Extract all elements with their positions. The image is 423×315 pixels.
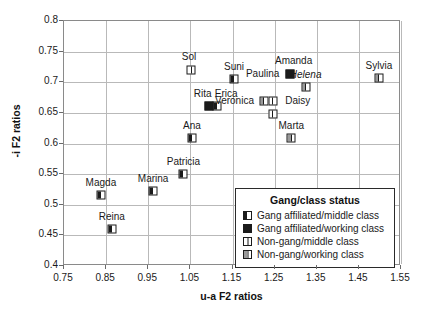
- legend-swatch-icon: [243, 250, 252, 259]
- data-point-label: Paulina: [246, 68, 279, 79]
- legend-item-gm: Gang affiliated/middle class: [243, 209, 387, 221]
- gridline-vertical: [148, 21, 149, 264]
- x-tick-mark: [316, 265, 317, 269]
- data-point-label: Rita: [194, 88, 212, 99]
- data-point-label: Ana: [183, 120, 201, 131]
- data-point-label: Veronica: [215, 95, 254, 106]
- data-point-marker: [187, 134, 196, 143]
- y-tick-label: 0.75: [0, 46, 58, 56]
- y-tick-label: 0.65: [0, 107, 58, 117]
- data-point-marker: [230, 74, 239, 83]
- x-tick-label: 1.45: [348, 273, 367, 283]
- x-tick-label: 0.75: [53, 273, 72, 283]
- gridline-horizontal: [64, 52, 399, 53]
- data-point-marker: [301, 83, 310, 92]
- gridline-vertical: [233, 21, 234, 264]
- legend-swatch-icon: [243, 224, 252, 233]
- data-point-label: Helena: [290, 69, 322, 80]
- y-tick-mark: [59, 234, 63, 235]
- x-tick-label: 0.85: [95, 273, 114, 283]
- y-tick-label: 0.55: [0, 168, 58, 178]
- data-point-marker: [179, 170, 188, 179]
- x-tick-mark: [105, 265, 106, 269]
- x-tick-mark: [358, 265, 359, 269]
- legend-item-gw: Gang affiliated/working class: [243, 222, 387, 234]
- x-tick-mark: [400, 265, 401, 269]
- x-tick-mark: [274, 265, 275, 269]
- data-point-marker: [187, 66, 196, 75]
- y-tick-mark: [59, 143, 63, 144]
- gridline-horizontal: [64, 174, 399, 175]
- data-point-label: Suni: [224, 61, 244, 72]
- y-tick-label: 0.6: [0, 138, 58, 148]
- legend-item-nm: Non-gang/middle class: [243, 235, 387, 247]
- gridline-horizontal: [64, 144, 399, 145]
- data-point-label: Marina: [138, 173, 169, 184]
- y-tick-label: 0.7: [0, 76, 58, 86]
- x-axis-title: u-a F2 ratios: [63, 290, 400, 302]
- gridline-vertical: [401, 21, 402, 264]
- data-point-label: Marta: [279, 120, 305, 131]
- y-tick-mark: [59, 112, 63, 113]
- y-tick-label: 0.8: [0, 15, 58, 25]
- data-point-marker: [96, 190, 105, 199]
- x-tick-mark: [63, 265, 64, 269]
- y-tick-label: 0.4: [0, 260, 58, 270]
- y-tick-mark: [59, 20, 63, 21]
- x-tick-label: 1.05: [180, 273, 199, 283]
- x-tick-label: 1.15: [222, 273, 241, 283]
- data-point-marker: [107, 225, 116, 234]
- data-point-label: Reina: [99, 211, 125, 222]
- y-tick-label: 0.45: [0, 229, 58, 239]
- data-point-label: Patricia: [167, 156, 200, 167]
- legend-item-label: Gang affiliated/working class: [257, 223, 384, 234]
- data-point-marker: [268, 96, 277, 105]
- x-tick-mark: [147, 265, 148, 269]
- y-tick-label: 0.5: [0, 199, 58, 209]
- legend-item-label: Gang affiliated/middle class: [257, 210, 379, 221]
- legend-item-label: Non-gang/middle class: [257, 236, 359, 247]
- x-tick-label: 0.95: [138, 273, 157, 283]
- data-point-label: Sol: [182, 51, 196, 62]
- y-tick-mark: [59, 173, 63, 174]
- data-point-marker: [259, 96, 268, 105]
- gridline-horizontal: [64, 113, 399, 114]
- legend-swatch-icon: [243, 211, 252, 220]
- legend-item-nw: Non-gang/working class: [243, 248, 387, 260]
- y-tick-mark: [59, 51, 63, 52]
- data-point-marker: [287, 134, 296, 143]
- legend-item-label: Non-gang/working class: [257, 249, 364, 260]
- data-point-label: Daisy: [285, 95, 310, 106]
- y-tick-mark: [59, 265, 63, 266]
- data-point-label: Magda: [86, 177, 117, 188]
- x-tick-label: 1.55: [390, 273, 409, 283]
- legend-title: Gang/class status: [243, 194, 387, 206]
- y-tick-mark: [59, 204, 63, 205]
- data-point-label: Sylvia: [366, 60, 393, 71]
- scatter-plot-figure: u-a F2 ratios -i F2 ratios Gang/class st…: [0, 0, 423, 315]
- y-tick-mark: [59, 81, 63, 82]
- legend-swatch-icon: [243, 237, 252, 246]
- data-point-label: Amanda: [275, 55, 312, 66]
- data-point-marker: [374, 74, 383, 83]
- x-tick-mark: [189, 265, 190, 269]
- legend: Gang/class status Gang affiliated/middle…: [235, 188, 395, 268]
- data-point-marker: [149, 186, 158, 195]
- data-point-marker: [268, 110, 277, 119]
- x-tick-label: 1.25: [264, 273, 283, 283]
- x-tick-label: 1.35: [306, 273, 325, 283]
- x-tick-mark: [232, 265, 233, 269]
- legend-rows: Gang affiliated/middle classGang affilia…: [243, 209, 387, 260]
